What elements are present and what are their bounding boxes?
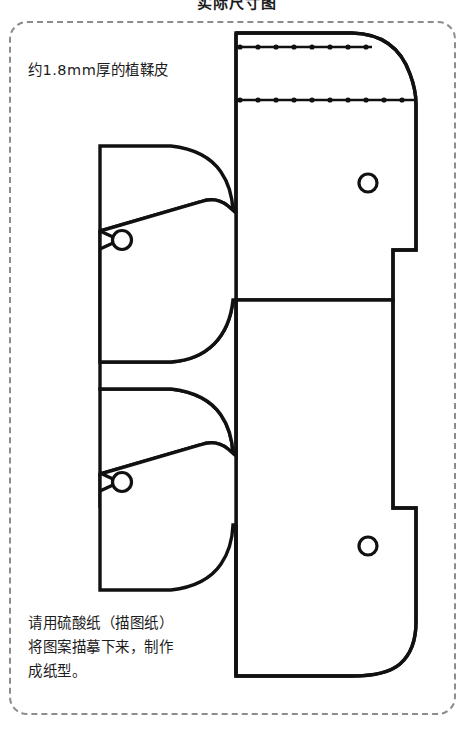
rivet-hole-upper-icon [359, 174, 377, 192]
rivet-hole-lower-icon [359, 537, 377, 555]
stitch-dot [327, 44, 332, 49]
stitch-dot [237, 44, 242, 49]
stitch-dot [237, 97, 242, 102]
pattern-sheet-page: 实际尺寸图 约1.8mm厚的植鞣皮 请用硫酸纸（描图纸） 将图案描摹下来，制作 … [0, 0, 474, 733]
stitch-dot [327, 97, 332, 102]
tab-ring-upper-icon [113, 231, 132, 250]
tab-upper-left-curve [100, 200, 236, 362]
stitch-dot [255, 97, 260, 102]
stitch-dot [363, 97, 368, 102]
stitch-dot [381, 97, 386, 102]
stitch-dot [273, 97, 278, 102]
stitch-dot [345, 44, 350, 49]
stitch-dot [309, 44, 314, 49]
stitch-dot [255, 44, 260, 49]
stitch-dot [399, 97, 404, 102]
stitch-dot [345, 97, 350, 102]
stitch-dot [291, 97, 296, 102]
stitch-dot [363, 44, 368, 49]
stitch-dot [309, 97, 314, 102]
stitch-dot [291, 44, 296, 49]
stitch-dot [273, 44, 278, 49]
pattern-drawing [0, 0, 474, 733]
tab-ring-lower-icon [113, 473, 132, 492]
